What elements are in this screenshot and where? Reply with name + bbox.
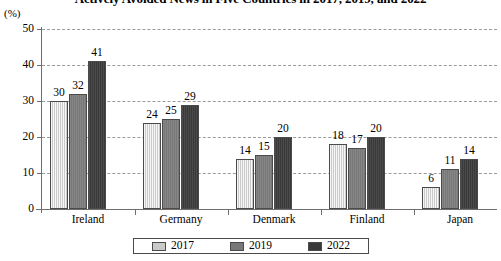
- bar-finland-2017[interactable]: [329, 144, 347, 209]
- bar-denmark-2019[interactable]: [255, 155, 273, 209]
- legend-label: 2022: [327, 240, 350, 252]
- bar-value-label: 17: [344, 134, 370, 146]
- chart-legend: 2017 2019 2022: [133, 238, 369, 254]
- bar-value-label: 41: [84, 47, 110, 59]
- bar-germany-2019[interactable]: [162, 119, 180, 209]
- bar-japan-2017[interactable]: [422, 187, 440, 209]
- y-axis-tick-labels: 50 40 30 20 10 0: [0, 29, 34, 209]
- bar-germany-2017[interactable]: [143, 123, 161, 209]
- bar-finland-2022[interactable]: [367, 137, 385, 209]
- y-tick-mark: [37, 209, 42, 210]
- y-tick-label: 10: [4, 167, 34, 179]
- category-label-denmark: Denmark: [229, 213, 319, 225]
- gridline: [42, 137, 497, 138]
- bar-value-label: 6: [418, 173, 444, 185]
- gridline: [42, 65, 497, 66]
- y-tick-mark: [37, 101, 42, 102]
- legend-swatch-icon: [308, 242, 322, 251]
- bar-germany-2022[interactable]: [181, 105, 199, 209]
- gridline: [42, 29, 497, 30]
- bar-value-label: 14: [456, 145, 482, 157]
- legend-item-2022[interactable]: 2022: [290, 240, 368, 252]
- legend-item-2019[interactable]: 2019: [212, 240, 290, 252]
- category-label-ireland: Ireland: [43, 213, 133, 225]
- y-tick-label: 0: [4, 203, 34, 215]
- legend-label: 2017: [171, 240, 194, 252]
- y-tick-label: 50: [4, 23, 34, 35]
- legend-item-2017[interactable]: 2017: [134, 240, 212, 252]
- y-tick-mark: [37, 173, 42, 174]
- plot-area: 30 32 41 24 25 29 14 15 20 18 17 20 6 11…: [42, 29, 497, 209]
- gridline: [42, 101, 497, 102]
- bar-value-label: 32: [65, 80, 91, 92]
- y-tick-label: 30: [4, 95, 34, 107]
- bar-ireland-2019[interactable]: [69, 94, 87, 209]
- bar-value-label: 20: [363, 123, 389, 135]
- bar-value-label: 20: [270, 123, 296, 135]
- legend-swatch-icon: [152, 242, 166, 251]
- bar-value-label: 29: [177, 91, 203, 103]
- category-label-germany: Germany: [136, 213, 226, 225]
- bar-value-label: 11: [437, 155, 463, 167]
- x-axis-line: [36, 209, 497, 210]
- y-tick-mark: [37, 137, 42, 138]
- legend-swatch-icon: [230, 242, 244, 251]
- chart-title: Actively Avoided News in Five Countries …: [0, 0, 501, 7]
- bar-value-label: 25: [158, 105, 184, 117]
- y-axis-unit-label: (%): [4, 7, 21, 19]
- legend-label: 2019: [249, 240, 272, 252]
- category-label-finland: Finland: [322, 213, 412, 225]
- bar-ireland-2017[interactable]: [50, 101, 68, 209]
- bar-denmark-2017[interactable]: [236, 159, 254, 209]
- y-tick-mark: [37, 29, 42, 30]
- y-tick-mark: [37, 65, 42, 66]
- y-tick-label: 40: [4, 59, 34, 71]
- bar-value-label: 15: [251, 141, 277, 153]
- category-label-japan: Japan: [415, 213, 501, 225]
- bar-finland-2019[interactable]: [348, 148, 366, 209]
- y-tick-label: 20: [4, 131, 34, 143]
